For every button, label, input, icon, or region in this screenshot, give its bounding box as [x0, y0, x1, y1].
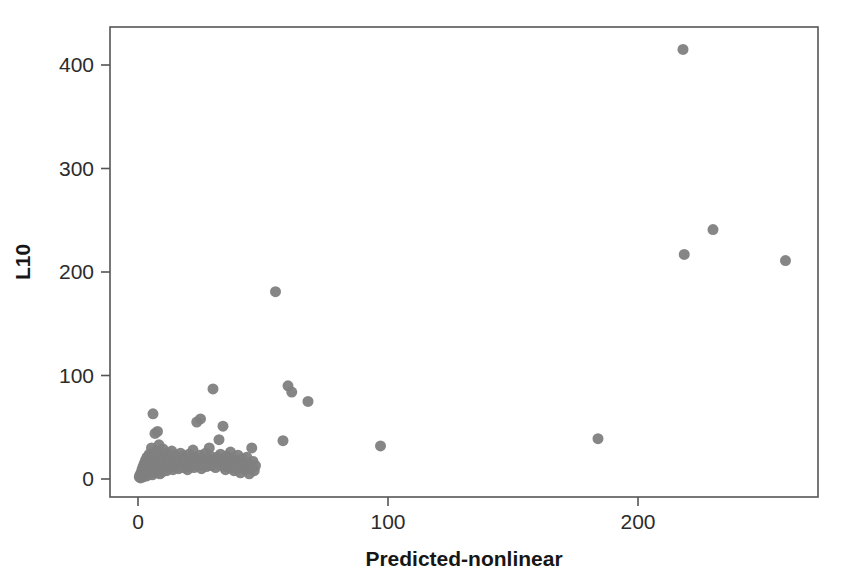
scatter-point [250, 460, 261, 471]
y-tick-label: 400 [59, 53, 94, 76]
scatter-point [286, 387, 297, 398]
y-tick-label: 300 [59, 157, 94, 180]
y-axis-title: L10 [11, 244, 34, 280]
plot-canvas: 0100200300400 0100200 Predicted-nonlinea… [0, 0, 847, 588]
scatter-point [679, 249, 690, 260]
scatter-point [708, 224, 719, 235]
x-tick-label: 200 [620, 510, 655, 533]
x-axis-title: Predicted-nonlinear [365, 547, 562, 570]
scatter-point [152, 426, 163, 437]
y-tick-label: 100 [59, 364, 94, 387]
scatter-point [780, 255, 791, 266]
scatter-plot-figure: 0100200300400 0100200 Predicted-nonlinea… [0, 0, 847, 588]
scatter-point [278, 435, 289, 446]
scatter-point [303, 396, 314, 407]
x-tick-label: 0 [132, 510, 144, 533]
scatter-point [246, 442, 257, 453]
scatter-point [678, 44, 689, 55]
scatter-point [375, 440, 386, 451]
scatter-point [148, 408, 159, 419]
scatter-point [593, 433, 604, 444]
figure-background [0, 0, 847, 588]
y-tick-label: 0 [82, 467, 94, 490]
x-tick-label: 100 [370, 510, 405, 533]
scatter-point [195, 413, 206, 424]
scatter-point [270, 286, 281, 297]
scatter-point [218, 421, 229, 432]
scatter-point [214, 434, 225, 445]
y-tick-label: 200 [59, 260, 94, 283]
scatter-point [208, 383, 219, 394]
